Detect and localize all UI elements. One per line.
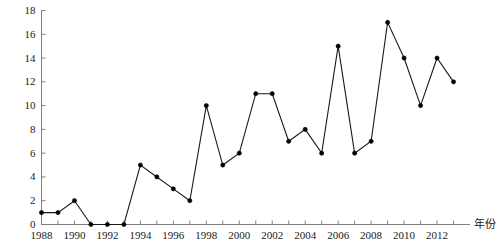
data-point [56, 211, 60, 215]
y-axis-ticks [42, 11, 46, 225]
data-point [303, 127, 307, 131]
y-tick-label: 18 [10, 5, 36, 16]
data-point [320, 151, 324, 155]
data-point [105, 222, 109, 226]
data-point [221, 163, 225, 167]
data-point [402, 56, 406, 60]
y-tick-label: 12 [10, 76, 36, 87]
data-point [369, 139, 373, 143]
data-point [122, 222, 126, 226]
x-axis-ticks [42, 221, 454, 225]
y-tick-label: 10 [10, 100, 36, 111]
data-point [155, 175, 159, 179]
data-point [353, 151, 357, 155]
data-point [188, 199, 192, 203]
data-point [39, 211, 43, 215]
data-point [418, 104, 422, 108]
data-line-series [42, 22, 454, 224]
axis-lines [42, 11, 471, 225]
data-point [89, 222, 93, 226]
data-point [336, 44, 340, 48]
data-point [204, 104, 208, 108]
x-tick-label: 2012 [417, 230, 457, 241]
y-tick-label: 4 [10, 171, 36, 182]
x-axis-title: 年份 [474, 219, 496, 230]
y-tick-label: 16 [10, 29, 36, 40]
y-tick-label: 14 [10, 53, 36, 64]
y-tick-label: 2 [10, 195, 36, 206]
data-point [254, 92, 258, 96]
y-tick-label: 8 [10, 124, 36, 135]
data-point [287, 139, 291, 143]
data-point [451, 80, 455, 84]
data-point [138, 163, 142, 167]
data-point [72, 199, 76, 203]
data-point [171, 187, 175, 191]
data-point [435, 56, 439, 60]
data-point [237, 151, 241, 155]
data-point [386, 20, 390, 24]
y-tick-label: 6 [10, 148, 36, 159]
data-point [270, 92, 274, 96]
